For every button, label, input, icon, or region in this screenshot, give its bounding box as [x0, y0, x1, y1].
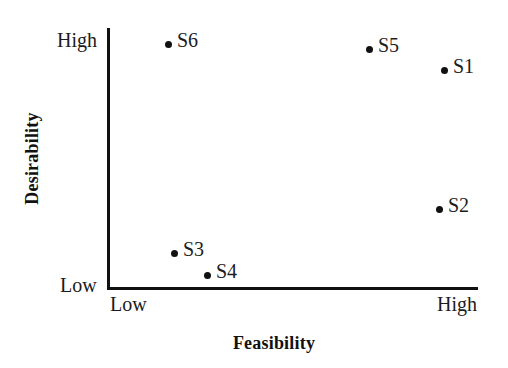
data-point-label: S4 [216, 261, 237, 281]
data-point-label: S3 [183, 239, 204, 259]
data-point-marker [204, 272, 211, 279]
data-point-label: S1 [453, 56, 474, 76]
feasibility-desirability-scatter-chart: High Low Low High Feasibility Desirabili… [0, 0, 508, 368]
data-point-marker [366, 46, 373, 53]
data-point-marker [165, 41, 172, 48]
data-point-marker [436, 206, 443, 213]
data-point-label: S6 [177, 30, 198, 50]
data-point-marker [171, 250, 178, 257]
data-point-label: S5 [378, 35, 399, 55]
data-point-marker [441, 67, 448, 74]
plot-area: S6 S5 S1 S2 S3 S4 [0, 0, 508, 368]
data-point-label: S2 [448, 195, 469, 215]
